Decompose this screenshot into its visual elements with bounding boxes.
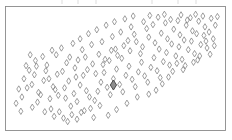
scatter-plot-figure: [0, 0, 232, 140]
plot-canvas: [0, 0, 232, 140]
